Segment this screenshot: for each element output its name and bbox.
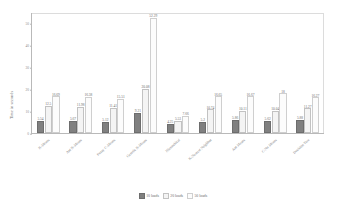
bar-group: 5.5412.516.69	[37, 13, 60, 133]
x-axis-tick-label: Fuzzy C-Means	[96, 138, 116, 157]
bar-groups: 5.5412.516.695.6711.9816.385.1211.4115.5…	[32, 13, 324, 133]
bar-value-label: 18	[281, 90, 285, 94]
x-axis-tick-label: Hierarchical	[164, 138, 180, 153]
bar[interactable]: 10.74	[207, 109, 214, 133]
bar[interactable]: 10.04	[272, 111, 279, 133]
x-axis-tick-label: Genetic K-Means	[126, 138, 148, 158]
x-axis-tick-label: C-Nn Means	[261, 138, 278, 154]
bar-value-label: 16.38	[84, 93, 92, 97]
bar-value-label: 5.67	[70, 117, 76, 121]
bar[interactable]: 18	[279, 93, 286, 133]
bar-value-label: 5.54	[37, 117, 43, 121]
bar[interactable]: 5.86	[232, 120, 239, 133]
x-axis-tick-label: Ant Means	[231, 138, 246, 152]
legend-label: 20 loads	[170, 194, 183, 198]
bar-value-label: 5.12	[102, 118, 108, 122]
legend-swatch-icon	[187, 193, 193, 199]
legend-item[interactable]: 20 loads	[163, 193, 183, 199]
bar-value-label: 5.62	[265, 117, 271, 121]
bar-group: 5.6711.9816.38	[69, 13, 92, 133]
bar-group: 5.8811.2716.27	[296, 13, 319, 133]
bar-value-label: 5.86	[232, 116, 238, 120]
bar-value-label: 5.88	[297, 116, 303, 120]
bar[interactable]: 16.65	[215, 96, 222, 133]
legend-label: 50 loads	[194, 194, 207, 198]
legend-swatch-icon	[139, 193, 145, 199]
bar[interactable]: 11.27	[304, 108, 311, 133]
bar[interactable]: 16.38	[85, 97, 92, 133]
legend-item[interactable]: 10 loads	[139, 193, 159, 199]
bar-value-label: 4.25	[167, 120, 173, 124]
bar-group: 5.1211.4115.51	[102, 13, 125, 133]
bar[interactable]: 7.66	[182, 116, 189, 133]
y-axis-tick-mark	[30, 134, 32, 135]
bar-value-label: 5.2	[201, 118, 205, 122]
bar-value-label: 9.21	[135, 109, 141, 113]
bar-value-label: 11.98	[77, 103, 85, 107]
bar-value-label: 10.74	[206, 106, 214, 110]
bar[interactable]: 9.21	[134, 113, 141, 133]
bar-value-label: 5.53	[175, 117, 181, 121]
bar-value-label: 11.27	[304, 105, 312, 109]
bar[interactable]: 16.27	[312, 97, 319, 133]
x-axis-tick-label: Ant K-Means	[66, 138, 84, 154]
bar-group: 4.255.537.66	[167, 13, 190, 133]
legend-item[interactable]: 50 loads	[187, 193, 207, 199]
bar[interactable]: 5.88	[296, 120, 303, 133]
bar-value-label: 12.5	[45, 102, 51, 106]
plot-area: 01020304050 5.5412.516.695.6711.9816.385…	[31, 13, 324, 134]
bar[interactable]: 10.11	[239, 111, 246, 133]
bar[interactable]: 5.2	[199, 122, 206, 133]
bar-value-label: 10.04	[271, 107, 279, 111]
bar[interactable]: 5.54	[37, 121, 44, 133]
bar-value-label: 16.65	[214, 93, 222, 97]
bar-value-label: 15.51	[117, 95, 125, 99]
bar[interactable]: 12.5	[45, 106, 52, 134]
bar[interactable]: 16.69	[52, 96, 59, 133]
bar-value-label: 7.66	[183, 112, 189, 116]
bar[interactable]: 11.41	[110, 108, 117, 133]
bar-group: 9.2120.0852.29	[134, 13, 157, 133]
bar-group: 5.6210.0418	[264, 13, 287, 133]
y-axis-label: Time in seconds	[9, 91, 14, 119]
bar[interactable]: 5.53	[174, 121, 181, 133]
x-axis-tick-label: K-Nearest Neighbor	[188, 138, 213, 161]
legend-swatch-icon	[163, 193, 169, 199]
bar[interactable]: 15.51	[117, 99, 124, 133]
bar-value-label: 16.69	[52, 93, 60, 97]
bar[interactable]: 11.98	[77, 107, 84, 133]
x-axis-tick-label: Decision Tree	[292, 138, 310, 155]
x-axis-labels: K-MeansAnt K-MeansFuzzy C-MeansGenetic K…	[31, 136, 324, 182]
chart-legend: 10 loads20 loads50 loads	[0, 193, 346, 199]
bar[interactable]: 5.62	[264, 121, 271, 133]
legend-label: 10 loads	[146, 194, 159, 198]
bar[interactable]: 5.12	[102, 122, 109, 133]
bar-value-label: 16.67	[247, 93, 255, 97]
bar-group: 5.210.7416.65	[199, 13, 222, 133]
bar[interactable]: 52.29	[150, 18, 157, 133]
bar[interactable]: 4.25	[167, 124, 174, 133]
bar[interactable]: 5.67	[69, 121, 76, 133]
bar-group: 5.8610.1116.67	[232, 13, 255, 133]
bar[interactable]: 20.08	[142, 89, 149, 133]
bar-value-label: 20.08	[142, 85, 150, 89]
bar-value-label: 10.11	[239, 107, 247, 111]
bar-value-label: 52.29	[149, 14, 157, 18]
bar-value-label: 16.27	[311, 94, 319, 98]
x-axis-tick-label: K-Means	[38, 138, 51, 150]
bar-chart: Time in seconds 01020304050 5.5412.516.6…	[0, 0, 346, 210]
bar-value-label: 11.41	[109, 104, 117, 108]
bar[interactable]: 16.67	[247, 96, 254, 133]
